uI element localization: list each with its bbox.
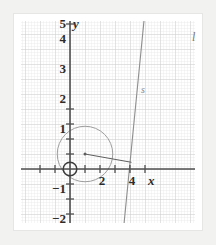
y-tick-label-1: 1: [54, 122, 66, 135]
y-tick-label-2: 2: [54, 92, 66, 105]
y-tick-label-5: 5: [54, 17, 66, 30]
radius-endpoint-dot: [84, 153, 87, 156]
y-tick-label-3: 3: [54, 62, 66, 75]
x-tick-label-4: 4: [126, 174, 138, 187]
y-tick-label-minus-1: −1: [44, 182, 66, 195]
y-tick-label-minus-2: −2: [44, 212, 66, 225]
line-label-l: l: [192, 31, 195, 43]
figure-page: 5 4 3 2 1 −1 −2 y 2 4 x s l: [0, 0, 216, 245]
coordinate-plane-graph: [0, 0, 216, 245]
circle-label-s: s: [141, 85, 145, 95]
x-axis-name: x: [148, 174, 155, 187]
y-tick-label-4: 4: [54, 32, 66, 45]
x-tick-label-2: 2: [96, 174, 108, 187]
y-axis-name: y: [73, 17, 79, 30]
